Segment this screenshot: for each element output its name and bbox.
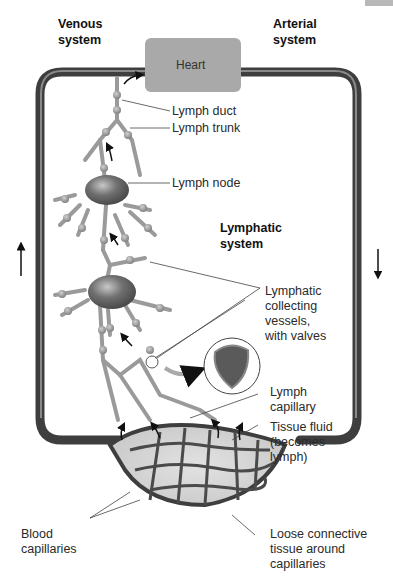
- valve-highlight: [146, 356, 158, 368]
- lymphatic-system-title: Lymphatic system: [220, 220, 282, 252]
- lymph-node-label: Lymph node: [172, 176, 240, 191]
- lymph-duct-label: Lymph duct: [172, 104, 236, 119]
- blood-capillaries-label: Blood capillaries: [21, 527, 77, 557]
- tissue-fluid-label: Tissue fluid (becomes lymph): [270, 420, 333, 465]
- lymph-valves: [58, 91, 164, 354]
- arterial-system-title: Arterial system: [273, 16, 317, 48]
- capillary-bed: [110, 425, 285, 505]
- loose-connective-tissue-label: Loose connective tissue around capillari…: [270, 527, 367, 572]
- lymphatic-system-diagram: Venous system Arterial system Lymphatic …: [0, 0, 393, 583]
- lymph-capillary-label: Lymph capillary: [270, 385, 316, 415]
- lymph-node-upper: [85, 175, 129, 205]
- lymph-trunk-label: Lymph trunk: [172, 121, 240, 136]
- lymph-node-lower: [88, 275, 136, 309]
- venous-system-title: Venous system: [58, 16, 102, 48]
- collecting-vessels-label: Lymphatic collecting vessels, with valve…: [265, 284, 326, 344]
- heart-label: Heart: [176, 58, 205, 72]
- diagram-graphic: [0, 0, 393, 583]
